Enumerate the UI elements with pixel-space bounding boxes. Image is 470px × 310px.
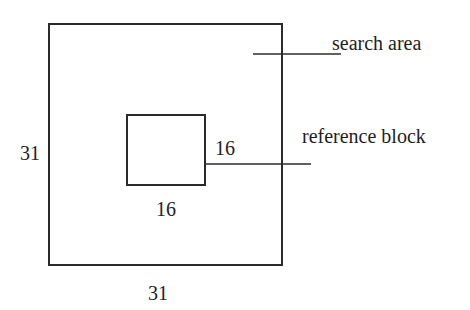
search-area-box xyxy=(49,24,282,265)
search-area-height-label: 31 xyxy=(20,142,40,164)
reference-block-label: reference block xyxy=(302,125,426,147)
search-area-width-label: 31 xyxy=(148,282,168,304)
reference-block-width-label: 16 xyxy=(156,198,176,220)
reference-block-height-label: 16 xyxy=(215,137,235,159)
block-search-diagram: search area reference block 31 31 16 16 xyxy=(0,0,470,310)
reference-block-box xyxy=(127,115,205,185)
search-area-label: search area xyxy=(332,32,421,54)
